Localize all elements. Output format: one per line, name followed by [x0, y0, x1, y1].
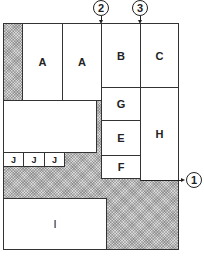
room-h: H: [140, 87, 179, 181]
room-label: G: [117, 98, 126, 110]
room-a-2: A: [62, 23, 102, 101]
marker-label: 1: [191, 174, 197, 186]
room-label: A: [39, 56, 47, 68]
room-label: H: [156, 128, 164, 140]
room-label: F: [118, 161, 125, 173]
room-label: B: [117, 50, 125, 62]
room-j-1: J: [3, 152, 24, 167]
marker-2: 2: [93, 0, 109, 16]
room-f: F: [101, 155, 141, 179]
room-label: A: [78, 56, 86, 68]
marker-1-leader: [141, 180, 183, 181]
room-g: G: [101, 87, 141, 121]
room-j-2: J: [23, 152, 45, 167]
room-a-1: A: [22, 23, 63, 101]
room-label: J: [52, 155, 57, 165]
room-unlabeled: [3, 100, 97, 153]
marker-2-arrow-icon: [99, 20, 103, 24]
room-c: C: [140, 23, 179, 88]
marker-label: 3: [137, 2, 143, 14]
marker-3-arrow-icon: [138, 20, 142, 24]
marker-3: 3: [132, 0, 148, 16]
marker-1-arrow-icon: [181, 178, 185, 182]
room-b: B: [101, 23, 141, 88]
room-label: C: [156, 50, 164, 62]
marker-label: 2: [98, 2, 104, 14]
room-e: E: [101, 120, 141, 156]
room-label: E: [117, 132, 124, 144]
room-label: J: [11, 155, 16, 165]
room-j-3: J: [44, 152, 65, 167]
marker-1: 1: [186, 172, 202, 188]
room-label: I: [53, 218, 56, 230]
room-label: J: [31, 155, 36, 165]
room-i: I: [3, 198, 107, 250]
